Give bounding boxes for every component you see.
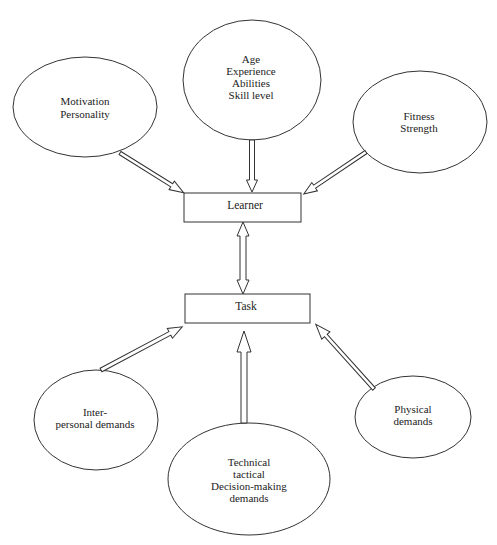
hollow-arrow-icon	[247, 140, 258, 192]
age-label-line-4: Skill level	[229, 89, 274, 101]
fitness-label-line-2: Strength	[400, 122, 438, 134]
node-motivation: Motivation Personality	[13, 57, 157, 157]
physical-label-line-1: Physical	[394, 403, 431, 415]
node-age: Age Experience Abilities Skill level	[183, 20, 321, 140]
hollow-arrow-icon	[117, 149, 186, 197]
interpersonal-label-line-2: personal demands	[55, 418, 134, 430]
edge-physical-to-task	[312, 321, 378, 393]
edge-learner-task	[237, 222, 249, 294]
edge-motivation-to-learner	[117, 149, 186, 197]
node-fitness: Fitness Strength	[353, 71, 487, 173]
technical-label-line-1: Technical	[228, 456, 271, 468]
learner-label: Learner	[227, 199, 263, 211]
node-learner: Learner	[184, 193, 301, 222]
technical-label-line-3: Decision-making	[211, 480, 287, 492]
task-label: Task	[235, 300, 257, 312]
edge-interpersonal-to-task	[98, 322, 184, 375]
node-task: Task	[185, 294, 310, 323]
hollow-arrow-icon	[98, 322, 184, 375]
technical-label-line-4: demands	[229, 492, 268, 504]
technical-label-line-2: tactical	[233, 468, 265, 480]
age-label-line-3: Abilities	[232, 77, 270, 89]
edge-age-to-learner	[247, 140, 258, 192]
hollow-arrow-icon	[301, 148, 369, 198]
fitness-label-line-1: Fitness	[403, 110, 434, 122]
hollow-double-arrow-icon	[237, 222, 249, 294]
interpersonal-label-line-1: Inter-	[83, 406, 108, 418]
age-label-line-1: Age	[242, 53, 260, 65]
motivation-label-line-1: Motivation	[61, 95, 110, 107]
learner-task-diagram: Motivation Personality Age Experience Ab…	[0, 0, 497, 545]
node-interpersonal: Inter- personal demands	[34, 370, 158, 470]
motivation-label-line-2: Personality	[60, 108, 110, 120]
node-technical: Technical tactical Decision-making deman…	[168, 423, 330, 535]
physical-label-line-2: demands	[393, 415, 432, 427]
hollow-arrow-icon	[237, 331, 251, 423]
hollow-arrow-icon	[312, 321, 378, 393]
edge-technical-to-task	[237, 331, 251, 423]
motivation-ellipse	[13, 57, 157, 157]
edge-fitness-to-learner	[301, 148, 369, 198]
age-label-line-2: Experience	[226, 65, 276, 77]
